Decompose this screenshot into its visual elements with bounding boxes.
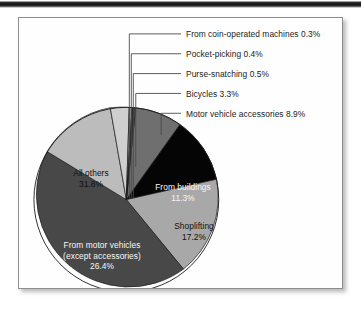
callout-label-purse-snatching: Purse-snatching 0.5% — [186, 69, 269, 79]
callout-label-motor-vehicle-accessories: Motor vehicle accessories 8.9% — [186, 109, 305, 119]
slice-label-from-motor-vehicles: From motor vehicles (except accessories)… — [40, 240, 164, 272]
slice-label-from-buildings-name: From buildings — [135, 182, 231, 193]
slice-label-from-buildings-value: 11.3% — [135, 193, 231, 204]
slice-label-shoplifting: Shoplifting 17.2% — [149, 221, 239, 242]
figure-frame: From coin-operated machines 0.3% Pocket-… — [18, 17, 343, 289]
callout-label-bicycles: Bicycles 3.3% — [186, 89, 239, 99]
slice-label-from-buildings: From buildings 11.3% — [135, 182, 231, 203]
callout-label-coin-operated-machines: From coin-operated machines 0.3% — [186, 29, 320, 39]
slice-label-from-motor-vehicles-line1: From motor vehicles — [40, 240, 164, 251]
slice-label-all-others-name: All others — [43, 168, 139, 179]
slice-label-all-others: All others 31.8% — [43, 168, 139, 189]
slice-label-shoplifting-name: Shoplifting — [149, 221, 239, 232]
page-scan-edge — [0, 0, 361, 9]
callout-label-pocket-picking: Pocket-picking 0.4% — [186, 49, 263, 59]
slice-label-from-motor-vehicles-value: 26.4% — [40, 261, 164, 272]
slice-label-from-motor-vehicles-line2: (except accessories) — [40, 251, 164, 262]
slice-label-all-others-value: 31.8% — [43, 179, 139, 190]
